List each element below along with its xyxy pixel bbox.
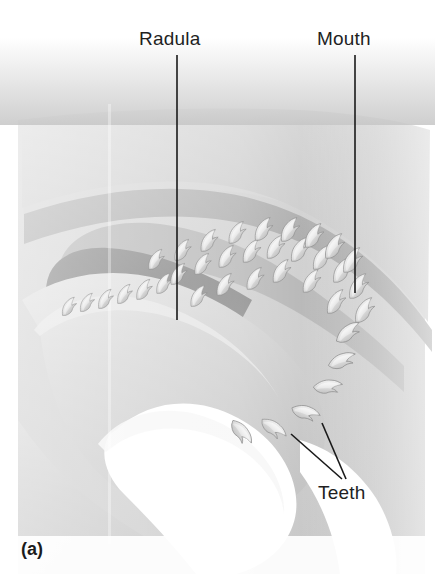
top-vignette (0, 0, 435, 125)
radula-figure: Radula Mouth Teeth (a) (0, 0, 435, 574)
bottom-vignette (0, 536, 435, 574)
label-mouth: Mouth (317, 29, 371, 48)
label-teeth: Teeth (318, 483, 365, 502)
illustration-canvas (0, 0, 435, 574)
panel-caption: (a) (21, 539, 43, 560)
label-radula: Radula (139, 29, 200, 48)
scan-artifact-line (108, 104, 111, 544)
